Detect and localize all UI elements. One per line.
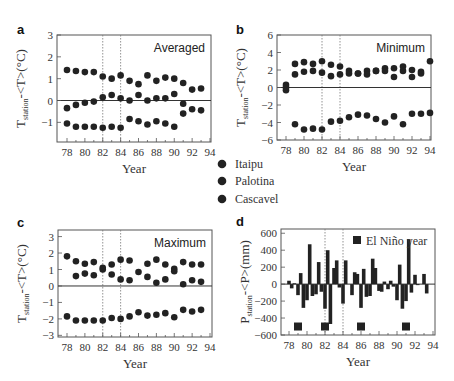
bar: [416, 284, 420, 285]
data-point: [373, 68, 380, 75]
bar: [374, 268, 378, 284]
legend-item-cascavel: Cascavel: [218, 192, 279, 206]
bar: [326, 250, 330, 284]
data-point: [310, 61, 317, 68]
data-point: [99, 125, 106, 132]
data-point: [82, 270, 89, 277]
data-point: [171, 91, 178, 98]
data-point: [82, 69, 89, 76]
data-point: [319, 69, 326, 76]
x-tick-label: 82: [317, 144, 328, 156]
data-point: [319, 58, 326, 65]
data-point: [355, 70, 362, 77]
x-tick-label: 94: [205, 146, 217, 158]
x-tick-label: 78: [284, 339, 296, 351]
bar: [401, 284, 405, 309]
bar: [341, 284, 345, 304]
figure: a b c d 788082848688909294−10123YearTsta…: [0, 0, 454, 381]
bar: [380, 284, 384, 292]
cascavel-marker-icon: [218, 195, 227, 204]
x-tick-label: 84: [338, 339, 350, 351]
bar: [299, 273, 303, 284]
data-point: [153, 78, 160, 85]
x-axis-label: Year: [123, 356, 148, 371]
data-point: [117, 316, 124, 323]
data-point: [391, 65, 398, 72]
data-point: [64, 253, 71, 260]
data-point: [108, 75, 115, 82]
data-point: [180, 259, 187, 266]
y-tick-label: −600: [254, 329, 277, 341]
data-point: [310, 68, 317, 75]
data-point: [180, 80, 187, 87]
data-point: [427, 110, 434, 117]
data-point: [409, 74, 416, 81]
data-point: [91, 98, 98, 105]
data-point: [346, 70, 353, 77]
data-point: [64, 105, 71, 112]
data-point: [126, 116, 133, 123]
bar: [287, 281, 291, 284]
data-point: [91, 123, 98, 130]
x-tick-label: 94: [428, 339, 440, 351]
x-tick-label: 92: [410, 339, 421, 351]
x-tick-label: 84: [115, 341, 127, 353]
data-point: [310, 125, 317, 132]
data-point: [135, 92, 142, 99]
bar: [410, 284, 414, 292]
bar: [392, 284, 396, 287]
x-tick-label: 90: [169, 341, 181, 353]
panel-d-precipitation: 788082848688909294−600−400−2000200400600…: [237, 227, 439, 369]
bar: [293, 283, 297, 284]
x-tick-label: 82: [320, 339, 331, 351]
panel-title: Averaged: [154, 41, 205, 55]
x-tick-label: 90: [389, 144, 401, 156]
panel-b-minimum: 788082848688909294−6−4−20246YearTstation…: [233, 29, 436, 174]
data-point: [162, 310, 169, 317]
data-point: [391, 74, 398, 81]
x-tick-label: 86: [356, 339, 368, 351]
legend-label: Palotina: [235, 174, 275, 188]
y-axis-label: Pstation-<P>(mm): [237, 240, 254, 324]
data-point: [171, 268, 178, 275]
data-point: [153, 256, 160, 263]
data-point: [108, 123, 115, 130]
data-point: [418, 70, 425, 77]
y-tick-label: 2: [49, 247, 55, 259]
y-tick-label: 0: [268, 82, 274, 94]
x-tick-label: 78: [281, 144, 293, 156]
y-tick-label: −200: [254, 295, 277, 307]
panel-letter-a: a: [17, 22, 25, 37]
x-tick-label: 80: [302, 339, 314, 351]
data-point: [73, 102, 80, 109]
data-point: [198, 279, 205, 286]
data-point: [337, 71, 344, 78]
y-tick-label: 2: [268, 64, 274, 76]
data-point: [144, 274, 151, 281]
data-point: [189, 277, 196, 284]
x-tick-label: 94: [205, 341, 217, 353]
x-tick-label: 78: [62, 341, 74, 353]
data-point: [346, 114, 353, 121]
y-tick-label: 6: [268, 29, 274, 41]
data-point: [400, 121, 407, 128]
bar: [395, 284, 399, 300]
bar: [329, 284, 333, 324]
y-axis-label: Tstation-<T>(°C): [14, 244, 31, 323]
x-tick-label: 84: [335, 144, 347, 156]
y-axis-label: Tstation-<T>(°C): [13, 49, 30, 128]
data-point: [126, 277, 133, 284]
y-tick-label: 1: [49, 264, 55, 276]
data-point: [153, 279, 160, 286]
data-point: [117, 276, 124, 283]
data-point: [171, 75, 178, 82]
data-point: [319, 126, 326, 133]
bar: [317, 262, 321, 284]
bar: [413, 275, 417, 284]
y-tick-label: 3: [48, 29, 54, 41]
data-point: [73, 123, 80, 130]
bar: [425, 284, 429, 293]
bar: [296, 284, 300, 295]
bar: [422, 274, 426, 284]
x-axis-label: Year: [122, 161, 147, 176]
